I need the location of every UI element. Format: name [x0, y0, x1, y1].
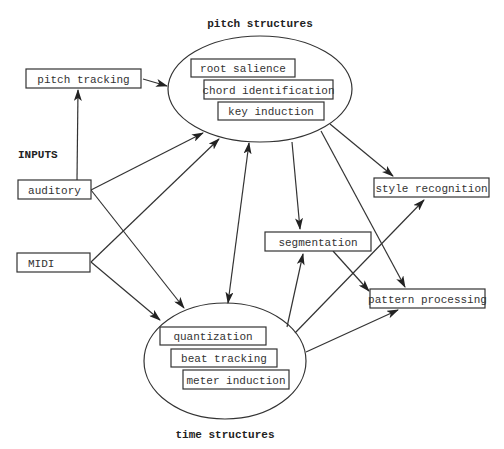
auditory-text: auditory	[28, 185, 81, 197]
node-key-induction: key induction	[218, 102, 324, 120]
inputs-label: INPUTS	[18, 149, 58, 161]
beat-tracking-text: beat tracking	[181, 353, 267, 365]
pitch-structures-label: pitch structures	[207, 18, 313, 30]
midi-text: MIDI	[28, 258, 54, 270]
edge-midi-to-time-structures	[91, 262, 160, 320]
edge-time-structures-to-style-recognition	[295, 200, 424, 333]
node-segmentation: segmentation	[265, 232, 371, 251]
edge-time-structures-to-pattern-processing	[306, 310, 398, 352]
time-structures-label: time structures	[175, 429, 274, 441]
node-pitch-tracking: pitch tracking	[26, 69, 141, 88]
meter-induction-text: meter induction	[186, 375, 285, 387]
node-style-recognition: style recognition	[374, 178, 489, 197]
node-midi: MIDI	[17, 253, 90, 272]
chord-identification-text: chord identification	[202, 85, 334, 97]
key-induction-text: key induction	[228, 106, 314, 118]
edge-pitch-time-bidirectional	[228, 143, 249, 303]
edge-pitch-structures-to-segmentation	[292, 142, 300, 229]
edge-auditory-to-pitch-tracking	[77, 90, 78, 180]
edge-time-structures-to-segmentation	[287, 254, 303, 327]
quantization-text: quantization	[173, 331, 252, 343]
pitch-tracking-text: pitch tracking	[37, 74, 129, 86]
root-salience-text: root salience	[200, 63, 286, 75]
style-recognition-text: style recognition	[375, 183, 487, 195]
node-beat-tracking: beat tracking	[171, 349, 277, 367]
edge-segmentation-to-pattern-processing	[333, 251, 369, 291]
edge-auditory-to-pitch-structures	[91, 133, 203, 190]
node-chord-identification: chord identification	[202, 80, 334, 99]
edge-pitch-structures-to-style-recognition	[330, 124, 393, 176]
node-meter-induction: meter induction	[183, 370, 289, 389]
node-quantization: quantization	[160, 327, 266, 345]
pattern-processing-text: pattern processing	[368, 294, 487, 306]
node-auditory: auditory	[18, 180, 91, 199]
node-pattern-processing: pattern processing	[368, 289, 487, 308]
edge-pitch-tracking-to-pitch-structures	[143, 79, 167, 86]
music-analysis-diagram: pitch structures time structures INPUTS …	[0, 0, 504, 449]
segmentation-text: segmentation	[278, 237, 357, 249]
node-root-salience: root salience	[191, 59, 295, 77]
